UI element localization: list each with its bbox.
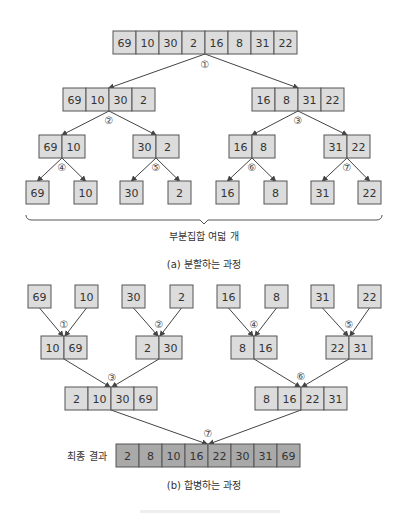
merge-leaf: 16 [217,285,240,308]
cell-value: 30 [127,291,141,304]
cell-value: 16 [283,393,297,406]
cell-value: 2 [124,450,131,463]
arrow [205,54,298,88]
final-result-label: 최종 결과 [67,451,106,462]
cell-value: 2 [73,393,80,406]
cell-value: 10 [141,37,155,50]
cell-value: 30 [138,141,152,154]
cell-value: 31 [354,342,368,355]
arrow [112,359,159,387]
arrow [252,111,298,135]
cell-value: 2 [176,187,183,200]
arrow [62,111,109,135]
merge-leaf: 22 [358,285,381,308]
cell-value: 69 [118,37,132,50]
arrow [209,410,301,444]
brace [26,215,382,224]
cell-value: 10 [46,342,60,355]
step-number: ④ [250,319,259,330]
cell-value: 16 [234,141,248,154]
step-number: ⑥ [248,162,257,173]
split-l2-2: 168 [229,135,275,158]
merge-leaf: 31 [311,285,334,308]
cell-value: 30 [164,37,178,50]
cell-value: 22 [331,342,345,355]
cell-value: 8 [283,94,290,107]
merge-l1-1: 230 [136,336,182,359]
cell-value: 22 [363,187,377,200]
split-leaf: 31 [311,181,334,204]
edges [26,54,382,444]
step-number: ⑦ [343,162,352,173]
cell-value: 22 [363,291,377,304]
merge-leaf: 30 [122,285,145,308]
merge-final: 28101622303169 [116,444,300,467]
cell-value: 10 [167,450,181,463]
cell-value: 10 [79,187,93,200]
merge-leaf: 69 [28,285,51,308]
cell-value: 2 [140,94,147,107]
nodes: 6910302168312269103021683122691030216831… [26,31,381,467]
cell-value: 2 [178,291,185,304]
cell-value: 30 [114,94,128,107]
cell-value: 22 [213,450,227,463]
cell-value: 31 [329,393,343,406]
step-number: ④ [58,162,67,173]
cell-value: 22 [326,94,340,107]
step-number: ① [201,59,210,70]
split-l2-0: 6910 [39,135,85,158]
cell-value: 69 [282,450,296,463]
cell-value: 16 [190,450,204,463]
cell-value: 69 [31,187,45,200]
caption-split: (a) 분할하는 과정 [167,258,241,270]
cell-value: 10 [93,393,107,406]
split-l1-left: 6910302 [63,88,155,111]
cell-value: 31 [259,450,273,463]
split-leaf: 22 [358,181,381,204]
cell-value: 8 [260,141,267,154]
arrow [298,111,347,135]
split-l2-3: 3122 [324,135,370,158]
arrow [302,359,349,387]
merge-l1-0: 1069 [41,336,87,359]
split-leaf: 10 [74,181,97,204]
split-leaf: 2 [168,181,191,204]
cell-value: 10 [67,141,81,154]
split-l2-1: 302 [133,135,179,158]
cell-value: 22 [306,393,320,406]
merge-l2-left: 2103069 [65,387,157,410]
cell-value: 16 [257,94,271,107]
cell-value: 8 [273,291,280,304]
caption-merge: (b) 합병하는 과정 [167,479,242,491]
cell-value: 31 [316,187,330,200]
cell-value: 69 [139,393,153,406]
cell-value: 16 [222,291,236,304]
step-number: ⑦ [204,428,213,439]
cell-value: 8 [236,37,243,50]
step-number: ① [60,319,69,330]
cell-value: 69 [33,291,47,304]
merge-leaf: 8 [265,285,288,308]
step-number: ③ [108,372,117,383]
cell-value: 16 [210,37,224,50]
merge-l2-right: 8162231 [255,387,347,410]
cell-value: 30 [236,450,250,463]
arrow [254,359,300,387]
cell-value: 30 [125,187,139,200]
step-number: ② [155,319,164,330]
step-number: ⑤ [345,319,354,330]
merge-l1-3: 2231 [326,336,372,359]
arrow [109,111,156,135]
split-leaf: 8 [264,181,287,204]
arrow [111,410,207,444]
cell-value: 8 [147,450,154,463]
cell-value: 16 [259,342,273,355]
step-number: ⑥ [297,371,306,382]
cell-value: 69 [69,342,83,355]
cell-value: 2 [190,37,197,50]
cell-value: 69 [44,141,58,154]
step-number: ③ [294,115,303,126]
cell-value: 31 [303,94,317,107]
cell-value: 2 [144,342,151,355]
split-root: 69103021683122 [113,31,297,54]
